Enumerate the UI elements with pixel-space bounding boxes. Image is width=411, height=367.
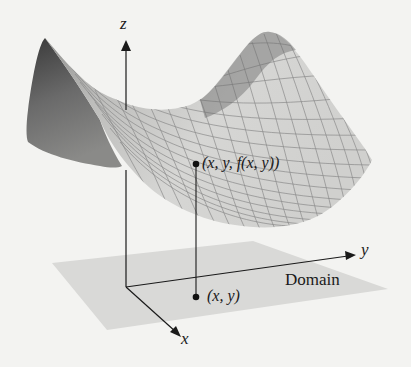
z-axis-label: z: [120, 15, 127, 32]
figure-canvas: [0, 0, 411, 367]
y-axis-arrowhead: [345, 251, 356, 260]
z-axis-arrowhead: [121, 40, 131, 51]
domain-label: Domain: [285, 271, 340, 288]
saddle-surface-figure: z y x (x, y, f(x, y)) (x, y) Domain: [0, 0, 411, 367]
surface-point-dot: [193, 161, 200, 168]
domain-point-label: (x, y): [207, 288, 240, 304]
surface-point-label: (x, y, f(x, y)): [202, 155, 279, 171]
y-axis-label: y: [361, 241, 369, 258]
x-axis-label: x: [181, 330, 189, 347]
domain-point-dot: [193, 294, 200, 301]
